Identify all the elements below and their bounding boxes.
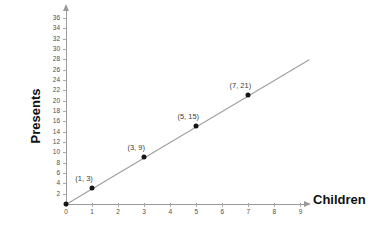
y-axis-tick	[63, 111, 67, 112]
data-point	[90, 186, 95, 191]
x-axis-tick-label: 2	[116, 209, 120, 216]
data-point-label: (5, 15)	[177, 113, 199, 121]
y-axis-tick-label: 24	[46, 77, 60, 84]
x-axis-tick-label: 6	[220, 209, 224, 216]
y-axis-tick-label: 12	[46, 139, 60, 146]
x-axis-tick	[170, 203, 171, 207]
y-axis-tick	[63, 163, 67, 164]
x-axis-tick	[196, 203, 197, 207]
y-axis-tick-label: 28	[46, 56, 60, 63]
x-axis-tick	[248, 203, 249, 207]
x-axis-tick-label: 8	[273, 209, 277, 216]
y-axis-arrow-icon	[63, 4, 69, 11]
y-axis-tick-label: 18	[46, 108, 60, 115]
y-axis-tick-label: 22	[46, 87, 60, 94]
data-point-label: (7, 21)	[230, 82, 252, 90]
y-axis-tick	[63, 90, 67, 91]
y-axis-tick-label: 8	[46, 159, 60, 166]
data-point	[142, 155, 147, 160]
y-axis-title: Presents	[28, 89, 43, 144]
x-axis-arrow-icon	[304, 201, 311, 207]
x-axis-tick-label: 0	[64, 209, 68, 216]
y-axis-tick	[63, 28, 67, 29]
y-axis-tick-label: 4	[46, 180, 60, 187]
data-point-label: (1, 3)	[75, 175, 93, 183]
y-axis-tick	[63, 39, 67, 40]
y-axis-tick	[63, 80, 67, 81]
x-axis-tick	[144, 203, 145, 207]
y-axis-tick-label: 30	[46, 46, 60, 53]
y-axis-tick	[63, 142, 67, 143]
x-axis-tick-label: 5	[194, 209, 198, 216]
x-axis-line	[66, 204, 306, 206]
x-axis-tick	[222, 203, 223, 207]
y-axis-tick	[63, 194, 67, 195]
y-axis-tick-label: 14	[46, 128, 60, 135]
y-axis-tick	[63, 70, 67, 71]
y-axis-tick-label: 6	[46, 170, 60, 177]
y-axis-tick-label: 26	[46, 66, 60, 73]
y-axis-tick	[63, 132, 67, 133]
y-axis-tick	[63, 152, 67, 153]
x-axis-tick-label: 1	[90, 209, 94, 216]
y-axis-tick-label: 2	[46, 190, 60, 197]
x-axis-tick	[92, 203, 93, 207]
y-axis-tick-label: 20	[46, 97, 60, 104]
y-axis-tick	[63, 49, 67, 50]
x-axis-tick-label: 3	[142, 209, 146, 216]
x-axis-tick	[118, 203, 119, 207]
x-axis-tick	[300, 203, 301, 207]
y-axis-tick-label: 16	[46, 118, 60, 125]
y-axis-tick	[63, 59, 67, 60]
data-point-label: (3, 9)	[127, 144, 145, 152]
y-axis-tick-label: 36	[46, 15, 60, 22]
x-axis-title: Children	[313, 192, 366, 207]
x-axis-tick-label: 9	[299, 209, 303, 216]
y-axis-tick	[63, 101, 67, 102]
scatter-chart-figure: 0123456789 24681012141618202224262830323…	[0, 0, 379, 232]
y-axis-tick	[63, 121, 67, 122]
y-axis-tick	[63, 183, 67, 184]
data-point	[64, 202, 69, 207]
y-axis-tick	[63, 18, 67, 19]
x-axis-tick	[274, 203, 275, 207]
y-axis-tick	[63, 173, 67, 174]
y-axis-tick-label: 34	[46, 25, 60, 32]
data-point	[194, 124, 199, 129]
data-point	[246, 93, 251, 98]
y-axis-tick-label: 10	[46, 149, 60, 156]
trend-line	[66, 59, 310, 205]
y-axis-tick-label: 32	[46, 35, 60, 42]
x-axis-tick-label: 7	[247, 209, 251, 216]
x-axis-tick-label: 4	[168, 209, 172, 216]
